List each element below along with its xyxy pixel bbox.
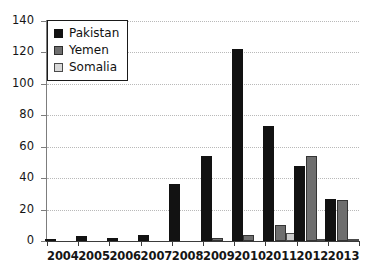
- y-tick-mark: [41, 147, 46, 148]
- bar-pakistan-2007: [138, 235, 149, 241]
- x-tick-label: 2006: [109, 250, 140, 262]
- legend-item-somalia: Somalia: [54, 59, 119, 76]
- y-tick-mark: [41, 115, 46, 116]
- bar-pakistan-2008: [169, 184, 180, 241]
- y-tick-label: 140: [0, 15, 34, 26]
- bar-pakistan-2013: [325, 199, 336, 241]
- x-tick-mark: [359, 241, 360, 246]
- y-tick-mark: [41, 210, 46, 211]
- y-tick-label: 120: [0, 46, 34, 57]
- x-tick-label: 2008: [172, 250, 203, 262]
- x-tick-label: 2005: [78, 250, 109, 262]
- y-tick-mark: [41, 84, 46, 85]
- y-tick-mark: [41, 241, 46, 242]
- bar-yemen-2010: [243, 235, 254, 241]
- bar-yemen-2011: [275, 225, 286, 241]
- legend-item-label: Pakistan: [69, 27, 119, 40]
- legend-item-label: Somalia: [69, 61, 117, 74]
- x-tick-label: 2011: [265, 250, 296, 262]
- bar-chart: 020406080100120140 200420052006200720082…: [0, 0, 379, 275]
- bar-yemen-2012: [306, 156, 317, 241]
- bar-pakistan-2010: [232, 49, 243, 241]
- x-tick-label: 2009: [203, 250, 234, 262]
- bar-pakistan-2005: [76, 236, 87, 241]
- x-tick-label: 2013: [328, 250, 359, 262]
- legend-swatch-icon: [54, 29, 63, 38]
- chart-legend: PakistanYemenSomalia: [47, 20, 128, 81]
- y-tick-mark: [41, 178, 46, 179]
- bar-pakistan-2006: [107, 238, 118, 241]
- legend-item-pakistan: Pakistan: [54, 25, 119, 42]
- bar-pakistan-2012: [294, 166, 305, 241]
- x-tick-label: 2012: [297, 250, 328, 262]
- y-tick-label: 40: [0, 172, 34, 183]
- gridline: [47, 241, 359, 242]
- bar-somalia-2013: [348, 239, 359, 241]
- bar-yemen-2013: [337, 200, 348, 241]
- x-tick-label: 2007: [141, 250, 172, 262]
- y-tick-mark: [41, 21, 46, 22]
- y-tick-label: 100: [0, 78, 34, 89]
- y-tick-label: 0: [0, 235, 34, 246]
- y-tick-mark: [41, 52, 46, 53]
- bar-pakistan-2009: [201, 156, 212, 241]
- x-tick-label: 2004: [47, 250, 78, 262]
- bar-pakistan-2004: [45, 239, 56, 241]
- y-tick-label: 60: [0, 141, 34, 152]
- bar-pakistan-2011: [263, 126, 274, 241]
- bar-yemen-2009: [212, 238, 223, 241]
- legend-item-label: Yemen: [69, 44, 109, 57]
- x-tick-label: 2010: [234, 250, 265, 262]
- legend-item-yemen: Yemen: [54, 42, 119, 59]
- legend-swatch-icon: [54, 46, 63, 55]
- legend-swatch-icon: [54, 63, 63, 72]
- y-tick-label: 20: [0, 204, 34, 215]
- y-tick-label: 80: [0, 109, 34, 120]
